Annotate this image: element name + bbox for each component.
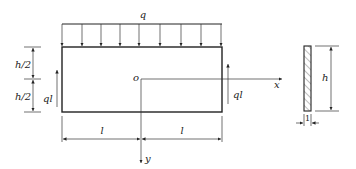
y-axis-label: y — [144, 153, 151, 164]
right-shear-force: ql — [228, 64, 243, 104]
cross-section: h 1 — [296, 46, 339, 126]
right-shear-label: ql — [233, 89, 243, 100]
section-rect — [304, 46, 311, 111]
coordinate-axes: o x y — [133, 72, 282, 164]
length-dimension: l l — [62, 116, 222, 142]
x-axis-label: x — [274, 79, 280, 90]
left-shear-force: ql — [43, 70, 57, 107]
height-dimension: h/2 h/2 — [15, 47, 41, 112]
beam-body — [62, 47, 222, 112]
origin-label: o — [133, 72, 139, 83]
load-label: q — [140, 9, 146, 20]
distributed-load: q — [62, 9, 222, 46]
section-height-label: h — [322, 72, 328, 83]
length-right-label: l — [180, 125, 183, 136]
half-height-bottom-label: h/2 — [15, 91, 31, 102]
section-width-label: 1 — [305, 114, 310, 123]
load-arrows — [62, 24, 221, 46]
length-left-label: l — [100, 125, 103, 136]
left-shear-label: ql — [43, 93, 53, 104]
beam-diagram: q o x y ql ql h/2 h/2 l l — [0, 0, 356, 169]
half-height-top-label: h/2 — [15, 59, 31, 70]
